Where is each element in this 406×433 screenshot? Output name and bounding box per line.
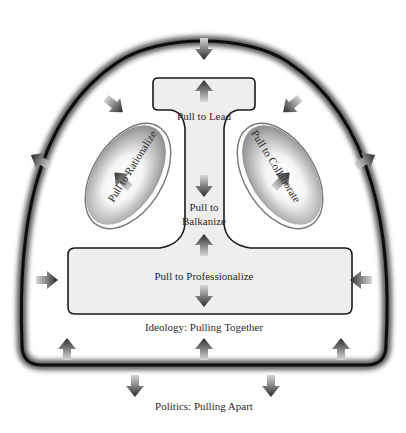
pull-to-lead-label: Pull to Lead [174, 110, 234, 123]
politics-label: Politics: Pulling Apart [144, 400, 264, 413]
pull-to-balkanize-label-line1: Pull to [174, 201, 234, 214]
pull-to-balkanize-label-line2: Balkanize [174, 215, 234, 228]
arrow-bottom-left-up-icon [58, 338, 76, 360]
pull-to-professionalize-label: Pull to Professionalize [144, 270, 264, 283]
arrow-bottom-left-down-icon [126, 375, 144, 397]
arrow-mid-right-inward-icon [350, 271, 372, 289]
arrow-mid-left-inward-icon [36, 271, 58, 289]
arrow-bottom-right-down-icon [262, 375, 280, 397]
ideology-label: Ideology: Pulling Together [134, 321, 274, 334]
arrow-upper-left-inward-icon [100, 91, 128, 119]
arrow-bottom-center-up-icon [195, 338, 213, 360]
arrow-bottom-right-up-icon [332, 338, 350, 360]
arrow-upper-right-inward-icon [277, 91, 305, 119]
